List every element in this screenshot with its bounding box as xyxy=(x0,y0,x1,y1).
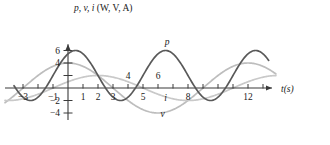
curve-label-i: i xyxy=(164,93,167,103)
y-axis-title: p, v, i (W, V, A) xyxy=(73,3,133,14)
x-tick-label-6: 6 xyxy=(156,71,161,81)
waveform-chart-figure: −3−1123456812 64−2−4 pvi p, v, i (W, V, … xyxy=(0,0,330,145)
x-axis-title: t(s) xyxy=(281,84,294,95)
curve-labels: pvi xyxy=(160,37,169,119)
curve-label-v: v xyxy=(160,109,165,119)
x-tick-label-8: 8 xyxy=(186,92,191,102)
x-tick-label-4: 4 xyxy=(126,71,131,81)
y-tick-label-4: 4 xyxy=(55,58,60,68)
x-tick-label--3: −3 xyxy=(18,92,28,102)
y-tick-label-6: 6 xyxy=(55,46,60,56)
y-axis-arrow-icon xyxy=(65,44,70,50)
x-tick-label-2: 2 xyxy=(96,92,101,102)
x-tick-label-3: 3 xyxy=(111,92,116,102)
x-tick-label-12: 12 xyxy=(243,92,253,102)
chart-canvas: −3−1123456812 64−2−4 pvi p, v, i (W, V, … xyxy=(0,0,330,145)
y-axis-tick-labels: 64−2−4 xyxy=(50,46,60,119)
curve-label-p: p xyxy=(164,37,170,47)
x-tick-label-1: 1 xyxy=(81,92,86,102)
y-tick-label--2: −2 xyxy=(50,96,60,106)
x-axis-arrow-icon xyxy=(266,85,272,90)
y-tick-label--4: −4 xyxy=(50,108,60,118)
x-tick-label-5: 5 xyxy=(141,92,146,102)
